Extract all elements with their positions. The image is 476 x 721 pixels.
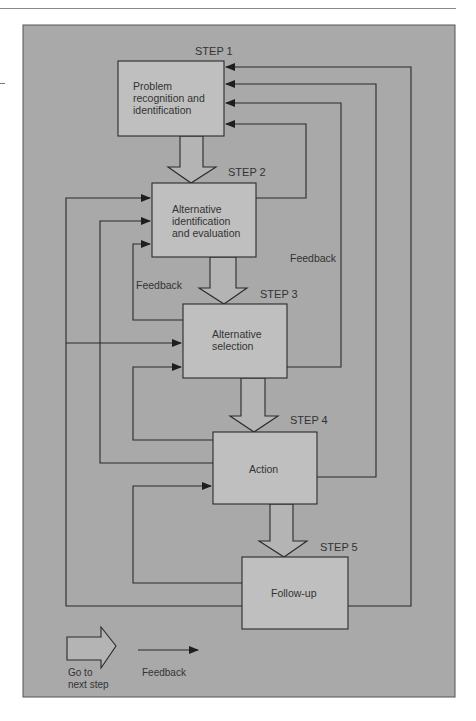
feedback-label-left: Feedback (136, 279, 183, 291)
step-1-label: STEP 1 (195, 45, 233, 57)
step-3-label: STEP 3 (260, 288, 298, 300)
legend-feedback-label: Feedback (142, 667, 187, 678)
step-4-label: STEP 4 (290, 414, 328, 426)
step-2-text-line-1: Alternative (172, 203, 222, 215)
step-4-text-line-1: Action (249, 463, 278, 475)
step-5-text-line-1: Follow-up (271, 587, 317, 599)
step-2-text-line-3: and evaluation (172, 227, 240, 239)
decision-process-diagram: STEP 1 STEP 2 STEP 3 STEP 4 STEP 5 Probl… (0, 0, 476, 721)
feedback-label-right: Feedback (290, 252, 337, 264)
step-1-text-line-3: identification (133, 104, 192, 116)
step-1-text-line-2: recognition and (133, 92, 205, 104)
legend-go-to-label: Go to (68, 667, 93, 678)
step-3-text-line-2: selection (212, 340, 254, 352)
step-3-text-line-1: Alternative (212, 328, 262, 340)
legend-next-step-label: next step (68, 679, 109, 690)
step-2-text-line-2: identification (172, 215, 231, 227)
step-5-label: STEP 5 (320, 541, 358, 553)
step-2-label: STEP 2 (228, 166, 266, 178)
step-1-text-line-1: Problem (133, 80, 172, 92)
